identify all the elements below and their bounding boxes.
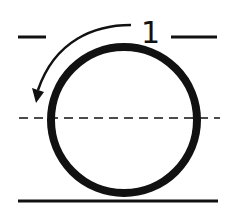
diagram-canvas: 1	[0, 0, 241, 217]
label-1: 1	[141, 15, 160, 50]
diagram: 1	[0, 0, 241, 217]
arrow-head-icon	[32, 88, 44, 103]
circle	[51, 47, 197, 193]
